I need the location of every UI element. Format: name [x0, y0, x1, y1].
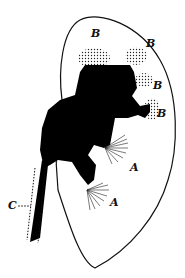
cluster-b2 — [125, 47, 147, 65]
label-b3: B — [153, 80, 162, 91]
label-b2: B — [146, 38, 155, 49]
kidney-diagram — [0, 0, 185, 278]
cluster-b3 — [135, 73, 153, 87]
label-b4: B — [157, 108, 166, 119]
ureter — [30, 160, 48, 242]
label-c: C — [8, 200, 17, 211]
fan-a2 — [87, 183, 109, 210]
label-b1: B — [91, 28, 100, 39]
label-a2: A — [110, 197, 119, 208]
label-a1: A — [130, 162, 139, 173]
